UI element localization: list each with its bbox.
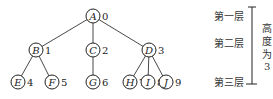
tree-node-A: A0 [86, 9, 108, 23]
node-index: 2 [102, 45, 108, 56]
tree-diagram: A0B1C2D3E4F5G6H7I8J9 第一层 第二层 第三层 高 度 为 3 [0, 0, 273, 99]
node-label: D [144, 45, 153, 56]
tree-node-D: D3 [142, 43, 164, 57]
node-index: 6 [102, 77, 108, 88]
node-label: A [88, 11, 96, 22]
tree-node-G: G6 [86, 75, 108, 89]
node-index: 1 [45, 45, 51, 56]
tree-node-J: J9 [159, 75, 181, 89]
node-label: C [89, 45, 97, 56]
node-index: 5 [61, 77, 67, 88]
height-char-4: 3 [264, 61, 270, 72]
level-1-label: 第一层 [214, 10, 244, 22]
node-label: E [13, 77, 22, 88]
tree-nodes: A0B1C2D3E4F5G6H7I8J9 [11, 9, 181, 89]
node-index: 3 [158, 45, 164, 56]
level-3-label: 第三层 [214, 76, 244, 88]
node-index: 0 [102, 11, 108, 22]
node-index: 4 [27, 77, 33, 88]
tree-node-B: B1 [29, 43, 51, 57]
height-char-3: 为 [262, 49, 272, 60]
node-label: G [89, 77, 97, 88]
level-2-label: 第二层 [214, 37, 244, 49]
height-char-2: 度 [262, 35, 272, 47]
node-label: J [162, 77, 169, 88]
node-label: B [31, 45, 39, 56]
height-char-1: 高 [262, 22, 272, 34]
node-label: F [48, 77, 57, 88]
node-label: H [125, 77, 135, 88]
node-index: 9 [175, 77, 181, 88]
tree-node-E: E4 [11, 75, 33, 89]
height-bracket [246, 7, 257, 84]
tree-node-C: C2 [86, 43, 108, 57]
tree-node-F: F5 [45, 75, 67, 89]
